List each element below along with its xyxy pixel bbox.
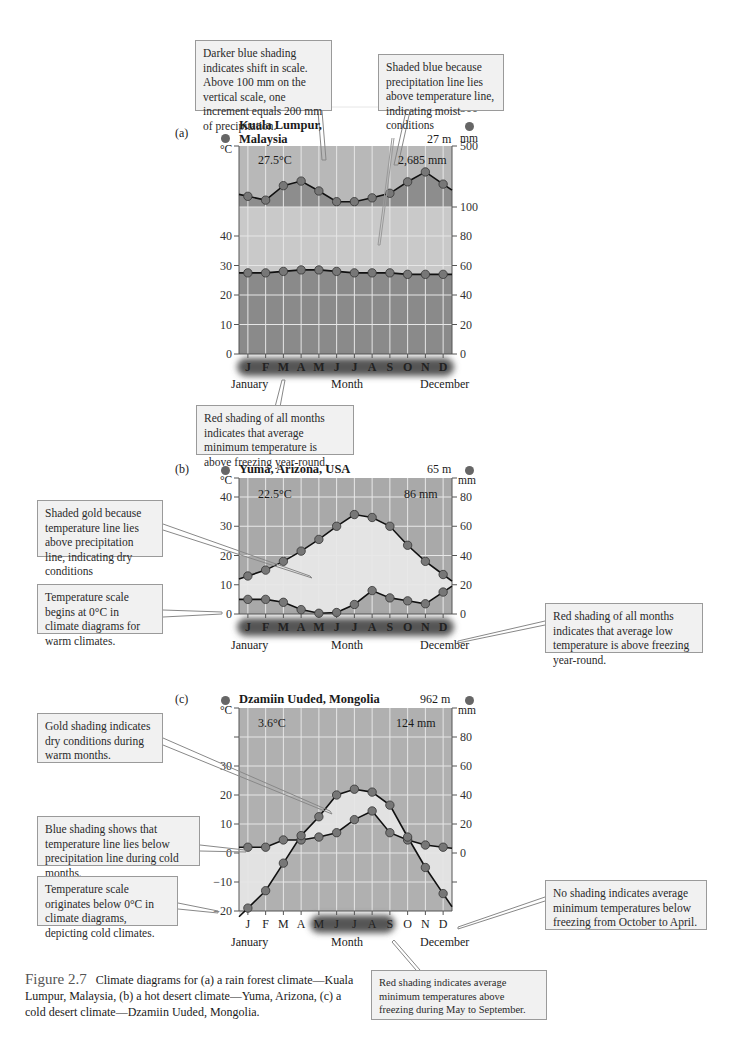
svg-text:N: N: [421, 360, 430, 374]
svg-text:−10: −10: [213, 875, 232, 889]
svg-text:O: O: [403, 620, 412, 634]
svg-text:D: D: [439, 360, 448, 374]
svg-text:O: O: [403, 360, 412, 374]
svg-text:60: 60: [460, 259, 472, 273]
callout-moist-conditions: Shaded blue because precipitation line l…: [378, 54, 504, 111]
svg-text:J: J: [334, 917, 339, 931]
svg-text:A: A: [297, 917, 306, 931]
svg-text:M: M: [278, 917, 289, 931]
panel-a-xlabel-left: January: [231, 377, 268, 392]
panel-c-left-unit: °C: [220, 704, 232, 716]
svg-text:S: S: [387, 360, 394, 374]
svg-text:F: F: [262, 360, 269, 374]
svg-text:S: S: [387, 917, 394, 931]
svg-text:J: J: [351, 360, 357, 374]
panel-a-xlabel-right: December: [420, 377, 469, 392]
panel-c-elevation: 962 m: [420, 692, 450, 707]
panel-c-xlabel-mid: Month: [331, 935, 363, 950]
svg-text:A: A: [368, 360, 377, 374]
precipitation-marker-icon: [465, 122, 474, 131]
svg-text:M: M: [314, 917, 325, 931]
callout-gold-warm-months: Gold shading indicates dry conditions du…: [37, 713, 163, 763]
panel-a-xlabel-mid: Month: [331, 377, 363, 392]
svg-text:0: 0: [460, 846, 466, 860]
svg-text:O: O: [403, 917, 412, 931]
svg-text:J: J: [246, 917, 251, 931]
callout-blue-cold-months: Blue shading shows that temperature line…: [37, 816, 200, 866]
svg-text:0: 0: [226, 607, 232, 621]
panel-c-mean-temp: 3.6°C: [258, 716, 286, 731]
svg-text:J: J: [351, 620, 357, 634]
callout-scale-shift: Darker blue shading indicates shift in s…: [195, 40, 332, 111]
figure-caption: Figure 2.7 Climate diagrams for (a) a ra…: [25, 971, 355, 1020]
svg-text:D: D: [439, 620, 448, 634]
panel-a-mean-temp: 27.5°C: [258, 153, 292, 168]
svg-text:A: A: [297, 620, 306, 634]
callout-warm-temp-scale: Temperature scale begins at 0°C in clima…: [37, 584, 163, 634]
svg-text:60: 60: [460, 759, 472, 773]
panel-c-annual-precip: 124 mm: [396, 716, 436, 731]
svg-text:M: M: [278, 360, 289, 374]
figure-number: Figure 2.7: [25, 971, 87, 987]
svg-text:A: A: [368, 917, 377, 931]
svg-text:M: M: [278, 620, 289, 634]
panel-a-right-unit: mm: [460, 132, 478, 144]
svg-text:60: 60: [460, 519, 472, 533]
svg-text:A: A: [368, 620, 377, 634]
panel-letter-c: (c): [175, 692, 188, 707]
svg-text:A: A: [297, 360, 306, 374]
svg-text:F: F: [262, 917, 269, 931]
svg-text:30: 30: [220, 519, 232, 533]
chart-c: JFMAMJJASOND −20−100102030 020406080: [213, 708, 472, 933]
svg-text:30: 30: [220, 259, 232, 273]
panel-c-xlabel-left: January: [231, 935, 268, 950]
callout-red-shading-a: Red shading of all months indicates that…: [196, 405, 354, 455]
callout-red-shading-b: Red shading of all months indicates that…: [545, 603, 703, 653]
svg-text:M: M: [313, 360, 324, 374]
panel-b-xlabel-right: December: [420, 638, 469, 653]
svg-text:M: M: [313, 620, 324, 634]
svg-text:40: 40: [220, 490, 232, 504]
svg-text:10: 10: [220, 817, 232, 831]
svg-text:40: 40: [220, 229, 232, 243]
svg-text:20: 20: [460, 817, 472, 831]
svg-text:10: 10: [220, 578, 232, 592]
panel-a-left-unit: °C: [220, 143, 232, 155]
svg-text:J: J: [245, 360, 251, 374]
panel-b-elevation: 65 m: [427, 462, 451, 477]
panel-a-elevation: 27 m: [427, 132, 451, 147]
callout-dry-conditions: Shaded gold because temperature line lie…: [37, 500, 163, 557]
panel-c-title: Dzamiin Uuded, Mongolia: [239, 692, 380, 706]
panel-c-xlabel-right: December: [420, 935, 469, 950]
svg-text:40: 40: [460, 288, 472, 302]
callout-cold-temp-scale: Temperature scale originates below 0°C i…: [37, 876, 178, 926]
svg-text:N: N: [421, 917, 430, 931]
svg-text:N: N: [421, 620, 430, 634]
svg-text:80: 80: [460, 730, 472, 744]
callout-red-may-sept: Red shading indicates average minimum te…: [371, 970, 547, 1020]
svg-text:20: 20: [460, 318, 472, 332]
svg-text:J: J: [334, 620, 340, 634]
svg-text:J: J: [334, 360, 340, 374]
svg-text:F: F: [262, 620, 269, 634]
panel-b-left-unit: °C: [220, 474, 232, 486]
panel-a-title-line2: Malaysia: [239, 132, 322, 146]
callout-no-shading: No shading indicates average minimum tem…: [545, 880, 707, 930]
svg-text:20: 20: [460, 578, 472, 592]
temperature-marker-icon: [221, 134, 230, 143]
panel-b-xlabel-mid: Month: [331, 638, 363, 653]
svg-text:20: 20: [220, 788, 232, 802]
panel-b-right-unit: mm: [458, 474, 476, 486]
svg-text:40: 40: [460, 788, 472, 802]
svg-text:80: 80: [460, 490, 472, 504]
svg-text:0: 0: [460, 607, 466, 621]
panel-b-xlabel-left: January: [231, 638, 268, 653]
panel-b-mean-temp: 22.5°C: [258, 487, 292, 502]
svg-text:10: 10: [220, 318, 232, 332]
svg-text:D: D: [439, 917, 448, 931]
panel-a-annual-precip: 2,685 mm: [398, 153, 447, 168]
svg-text:20: 20: [220, 288, 232, 302]
svg-text:80: 80: [460, 229, 472, 243]
panel-b-annual-precip: 86 mm: [404, 487, 438, 502]
svg-text:0: 0: [460, 347, 466, 361]
